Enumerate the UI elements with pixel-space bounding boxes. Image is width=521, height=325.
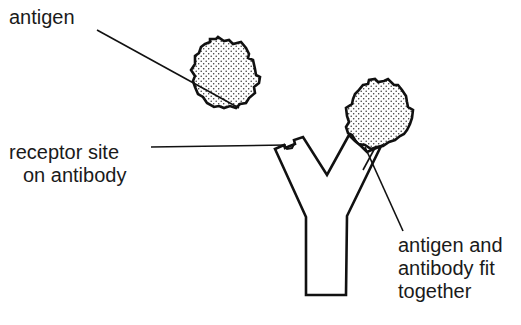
free-antigen bbox=[191, 37, 260, 108]
receptor-site-label: receptor site on antibody bbox=[9, 141, 126, 187]
receptor-leader-line bbox=[151, 145, 286, 147]
receptor-site-label-line2: on antibody bbox=[9, 164, 126, 187]
antibody-shape bbox=[275, 135, 381, 295]
antigen-antibody-fit-label: antigen and antibody fit together bbox=[398, 234, 503, 303]
bound-antigen-shape bbox=[346, 79, 413, 149]
antibody bbox=[275, 135, 381, 295]
fit-label-line1: antigen and bbox=[398, 234, 503, 257]
antigen-label-text: antigen bbox=[9, 6, 75, 29]
fit-label-line2: antibody fit bbox=[398, 257, 503, 280]
fit-leader-line bbox=[365, 147, 403, 231]
antigen-label: antigen bbox=[9, 6, 75, 29]
receptor-site-label-line1: receptor site bbox=[9, 141, 126, 164]
fit-label-line3: together bbox=[398, 280, 503, 303]
bound-antigen bbox=[346, 79, 413, 149]
free-antigen-shape bbox=[191, 37, 260, 108]
